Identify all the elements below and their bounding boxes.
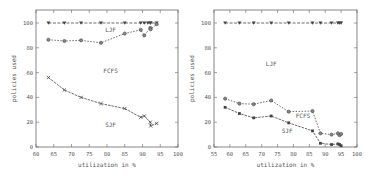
square-marker (270, 115, 273, 118)
square-marker (319, 142, 322, 145)
y-tick-label: 60 (26, 70, 33, 76)
y-tick-label: 0 (30, 144, 33, 150)
circle-marker (143, 34, 146, 37)
square-marker (287, 121, 290, 124)
circle-marker (63, 39, 66, 42)
circle-marker (123, 32, 126, 35)
circle-marker (139, 28, 142, 31)
x-tick-label: 60 (33, 151, 40, 157)
chart-panel-2: 556065707580859095100020406080100utiliza… (188, 10, 362, 168)
circle-marker (99, 41, 102, 44)
y-tick-label: 100 (201, 20, 211, 26)
y-tick-label: 80 (204, 45, 211, 51)
circle-marker (149, 28, 152, 31)
y-axis-label: policies used (10, 55, 18, 102)
x-tick-label: 95 (157, 151, 164, 157)
circle-marker (224, 97, 227, 100)
y-tick-label: 100 (23, 20, 33, 26)
x-tick-label: 90 (139, 151, 146, 157)
circle-marker (330, 133, 333, 136)
x-tick-label: 75 (86, 151, 93, 157)
circle-marker (340, 132, 343, 135)
square-marker (224, 106, 227, 109)
chart-panel-1: 6065707580859095100020406080100utilizati… (10, 10, 183, 168)
y-tick-label: 60 (204, 70, 211, 76)
circle-marker (270, 99, 273, 102)
y-tick-label: 0 (208, 144, 211, 150)
x-tick-label: 70 (68, 151, 75, 157)
x-tick-label: 60 (227, 151, 234, 157)
x-tick-label: 100 (173, 151, 183, 157)
region-label: FCFS (296, 112, 311, 119)
region-label: LJF (266, 60, 277, 67)
square-marker (330, 143, 333, 146)
y-tick-label: 20 (26, 119, 33, 125)
circle-marker (155, 23, 158, 26)
x-marker (63, 88, 66, 91)
y-tick-label: 40 (26, 94, 33, 100)
x-tick-label: 100 (352, 151, 362, 157)
x-tick-label: 65 (242, 151, 249, 157)
region-label: SJF (105, 121, 116, 128)
x-tick-label: 65 (50, 151, 57, 157)
x-marker (143, 114, 146, 117)
x-tick-label: 55 (211, 151, 218, 157)
x-axis-label: utilization in % (78, 161, 136, 168)
region-label: SJF (282, 127, 293, 134)
square-marker (238, 112, 241, 115)
square-marker (311, 129, 314, 132)
y-axis-label: policies used (188, 55, 196, 102)
series-line (48, 78, 156, 126)
x-tick-label: 95 (338, 151, 345, 157)
circle-marker (287, 110, 290, 113)
x-tick-label: 70 (258, 151, 265, 157)
x-marker (47, 76, 50, 79)
circle-marker (252, 103, 255, 106)
y-tick-label: 80 (26, 45, 33, 51)
circle-marker (311, 109, 314, 112)
x-tick-label: 75 (274, 151, 281, 157)
region-label: LJF (105, 26, 116, 33)
x-marker (149, 121, 152, 124)
square-marker (340, 144, 343, 147)
region-label: FCFS (103, 67, 118, 74)
x-tick-label: 80 (290, 151, 297, 157)
square-marker (252, 116, 255, 119)
x-tick-label: 80 (104, 151, 111, 157)
x-tick-label: 85 (121, 151, 128, 157)
circle-marker (79, 39, 82, 42)
x-tick-label: 85 (306, 151, 313, 157)
chart-canvas: 6065707580859095100020406080100utilizati… (0, 0, 371, 177)
y-tick-label: 20 (204, 119, 211, 125)
x-marker (155, 122, 158, 125)
circle-marker (319, 132, 322, 135)
chart-figure: 6065707580859095100020406080100utilizati… (0, 0, 371, 177)
x-axis-label: utilization in % (257, 161, 315, 168)
circle-marker (47, 38, 50, 41)
x-tick-label: 90 (322, 151, 329, 157)
circle-marker (238, 102, 241, 105)
y-tick-label: 40 (204, 94, 211, 100)
